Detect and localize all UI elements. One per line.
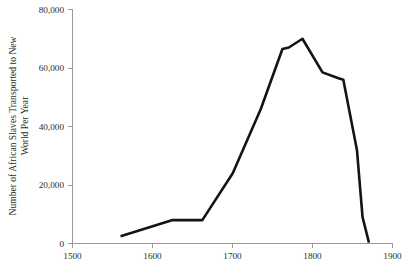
line-chart: Number of African Slaves Transported to … <box>0 0 416 276</box>
axes <box>73 9 394 244</box>
y-axis-ticks <box>68 10 73 244</box>
chart-container: Number of African Slaves Transported to … <box>0 0 416 276</box>
y-tick-label-40000: 40,000 <box>39 122 65 132</box>
x-tick-label-1600: 1600 <box>143 251 162 261</box>
y-axis-title-line2: World Per Year <box>19 96 30 155</box>
y-tick-label-80000: 80,000 <box>39 5 65 15</box>
x-tick-label-1900: 1900 <box>383 251 402 261</box>
x-axis-ticks <box>73 244 393 249</box>
x-axis-tick-labels: 1500 1600 1700 1800 1900 <box>63 251 402 261</box>
y-tick-label-0: 0 <box>59 239 64 249</box>
y-axis-title: Number of African Slaves Transported to … <box>7 36 30 215</box>
y-tick-label-60000: 60,000 <box>39 63 65 73</box>
y-axis-title-line1: Number of African Slaves Transported to … <box>7 36 18 215</box>
y-axis-tick-labels: 0 20,000 40,000 60,000 80,000 <box>39 5 65 249</box>
x-tick-label-1800: 1800 <box>303 251 322 261</box>
x-tick-label-1700: 1700 <box>223 251 242 261</box>
y-tick-label-20000: 20,000 <box>39 180 65 190</box>
x-tick-label-1500: 1500 <box>63 251 82 261</box>
data-series-line <box>121 39 369 243</box>
